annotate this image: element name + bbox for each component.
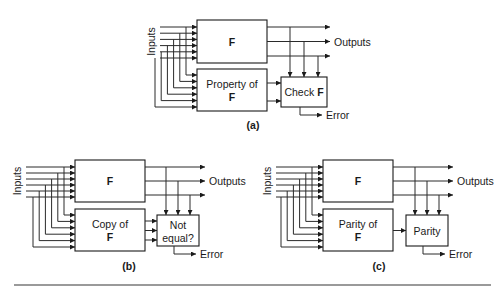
f-box-label: F [229,36,236,48]
panel-caption: (a) [247,119,260,131]
diagram-panels: InputsFProperty ofFOutputsCheck FError(a… [11,20,494,272]
error-detection-diagram: InputsFProperty ofFOutputsCheck FError(a… [0,0,504,291]
check-box-label: Not [170,219,186,231]
input-branch [293,185,323,234]
check-box-label: Check F [284,86,324,98]
inputs-label: Inputs [11,167,23,196]
side-box-label: Property of [206,78,257,90]
input-branch [174,39,197,87]
input-branch [287,191,323,241]
outputs-label: Outputs [457,175,494,187]
side-box-label: Parity of [339,218,378,230]
error-line [423,246,445,254]
outputs-label: Outputs [334,36,371,48]
side-box [75,209,145,251]
inputs-label: Inputs [145,27,157,56]
panel-c: InputsFParity ofFOutputsParityError(c) [261,160,494,272]
outputs-label: Outputs [209,175,246,187]
input-branch [52,179,75,228]
error-label: Error [200,248,224,260]
side-box-label-f: F [229,91,236,103]
side-box [197,69,267,111]
panel-a: InputsFProperty ofFOutputsCheck FError(a… [145,20,371,131]
input-branch [300,179,323,228]
error-line [300,107,322,115]
panel-caption: (c) [373,260,386,272]
input-branch [39,191,75,241]
input-branch [167,46,197,95]
side-box-label-f: F [355,231,362,243]
side-box-label-f: F [107,231,114,243]
f-box-label: F [355,175,362,187]
input-branch [161,52,197,101]
panel-caption: (b) [122,260,135,272]
inputs-label: Inputs [261,167,273,196]
f-box-label: F [107,175,114,187]
side-box [323,209,393,251]
side-box-label: Copy of [92,218,128,230]
input-branch [180,33,197,81]
panel-b: InputsFCopy ofFOutputsNotequal?Error(b) [11,160,246,272]
error-line [174,246,196,254]
input-branch [186,27,197,75]
input-branch [45,185,75,234]
check-box-label: Parity [414,225,442,237]
check-box-label-2: equal? [162,232,194,244]
error-label: Error [449,248,473,260]
error-label: Error [326,109,350,121]
